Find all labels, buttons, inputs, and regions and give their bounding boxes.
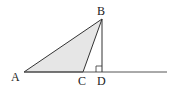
geometry-diagram: A B C D	[0, 0, 174, 91]
right-angle-marker	[96, 66, 102, 72]
label-b: B	[97, 4, 105, 18]
triangle-abc	[24, 19, 102, 72]
label-d: D	[97, 74, 106, 88]
label-c: C	[78, 74, 86, 88]
label-a: A	[11, 70, 20, 84]
